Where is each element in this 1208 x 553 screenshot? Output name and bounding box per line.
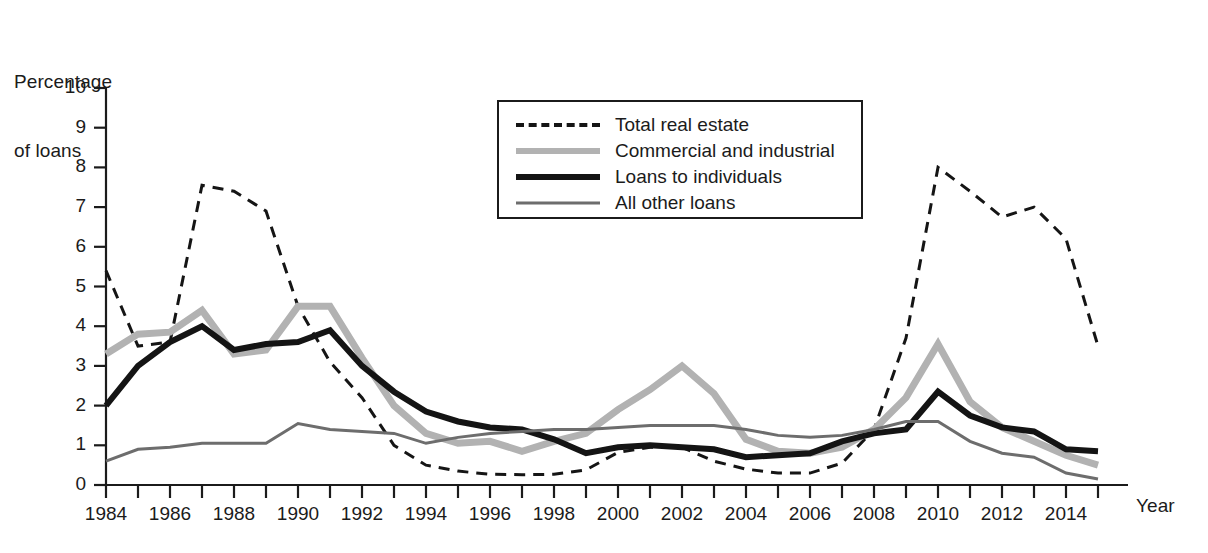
y-tick-label: 5 (52, 275, 86, 297)
series-line (106, 306, 1098, 465)
x-tick-label: 1988 (202, 503, 266, 525)
y-tick-label: 2 (52, 394, 86, 416)
x-tick-label: 1998 (522, 503, 586, 525)
x-tick-label: 2006 (778, 503, 842, 525)
x-tick-label: 1994 (394, 503, 458, 525)
thin-gray-line-icon (516, 197, 600, 209)
y-tick-label: 10 (52, 76, 86, 98)
series-line (106, 326, 1098, 457)
legend-item-label: Loans to individuals (615, 166, 782, 188)
legend-item[interactable]: Loans to individuals (499, 163, 861, 191)
chart-legend: Total real estateCommercial and industri… (497, 100, 863, 219)
x-tick-label: 2002 (650, 503, 714, 525)
y-tick-label: 4 (52, 314, 86, 336)
x-tick-label: 1984 (74, 503, 138, 525)
legend-item[interactable]: Commercial and industrial (499, 137, 861, 165)
x-tick-label: 2000 (586, 503, 650, 525)
x-tick-label: 2010 (906, 503, 970, 525)
y-tick-label: 3 (52, 354, 86, 376)
y-tick-label: 8 (52, 155, 86, 177)
y-tick-label: 6 (52, 235, 86, 257)
dashed-line-icon (516, 119, 600, 131)
x-tick-label: 2004 (714, 503, 778, 525)
x-tick-label: 1992 (330, 503, 394, 525)
x-tick-label: 2014 (1034, 503, 1098, 525)
thick-gray-line-icon (516, 145, 600, 157)
legend-item-label: Total real estate (615, 114, 749, 136)
y-tick-label: 0 (52, 473, 86, 495)
legend-item[interactable]: All other loans (499, 189, 861, 217)
x-tick-label: 2008 (842, 503, 906, 525)
x-tick-label: 1990 (266, 503, 330, 525)
thick-black-line-icon (516, 171, 600, 183)
y-tick-label: 9 (52, 116, 86, 138)
chart-container: Percentage of loans Year 012345678910 19… (0, 0, 1208, 553)
x-tick-label: 1986 (138, 503, 202, 525)
legend-item-label: Commercial and industrial (615, 140, 835, 162)
y-tick-label: 7 (52, 195, 86, 217)
y-tick-label: 1 (52, 433, 86, 455)
x-tick-label: 1996 (458, 503, 522, 525)
legend-item[interactable]: Total real estate (499, 111, 861, 139)
x-tick-label: 2012 (970, 503, 1034, 525)
plot-area (0, 0, 1208, 553)
legend-item-label: All other loans (615, 192, 735, 214)
